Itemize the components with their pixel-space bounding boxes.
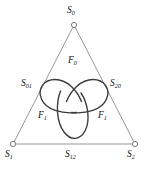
label-edge-s20-sub: 20 <box>115 82 121 89</box>
label-edge-s20: S20 <box>110 79 121 89</box>
label-face-f0-base: F <box>68 55 74 65</box>
label-edge-s12: S12 <box>65 150 76 160</box>
label-edge-s12-sub: 12 <box>70 153 76 160</box>
label-vertex-s1: S1 <box>5 150 13 160</box>
label-face-f1-left-sub: 1 <box>44 114 47 121</box>
trefoil-curve <box>40 80 108 139</box>
label-vertex-s1-sub: 1 <box>10 153 13 160</box>
trefoil-petal-upper-left <box>40 80 81 113</box>
label-vertex-s0: S0 <box>67 6 75 16</box>
label-edge-s01: S01 <box>21 79 32 89</box>
label-vertex-s2-sub: 2 <box>132 153 135 160</box>
label-face-f1-right-base: F <box>98 110 104 120</box>
vertex-marker-bottom-left <box>10 141 15 146</box>
label-face-f1-right: F1 <box>98 111 107 121</box>
vertex-marker-top <box>71 22 76 27</box>
label-face-f1-left: F1 <box>38 111 47 121</box>
vertex-marker-bottom-right <box>132 141 137 146</box>
figure-container: S0 S1 S2 S01 S20 S12 F0 F1 F1 <box>0 0 150 170</box>
label-face-f0-sub: 0 <box>74 59 77 66</box>
label-vertex-s0-sub: 0 <box>72 9 75 16</box>
label-face-f1-left-base: F <box>38 110 44 120</box>
label-vertex-s2: S2 <box>127 150 135 160</box>
label-face-f0: F0 <box>68 56 77 66</box>
label-edge-s01-sub: 01 <box>26 82 32 89</box>
trefoil-petal-lower <box>57 91 88 138</box>
label-face-f1-right-sub: 1 <box>104 114 107 121</box>
